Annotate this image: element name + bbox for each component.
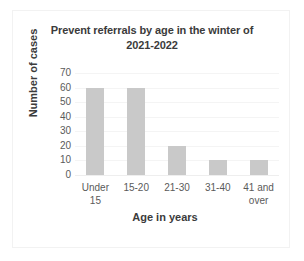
bar-slot — [157, 73, 198, 175]
y-tick-label: 30 — [60, 126, 71, 136]
chart-title: Prevent referrals by age in the winter o… — [23, 23, 281, 53]
x-tick-label-line: Under — [75, 181, 116, 194]
y-axis-tick-labels: 706050403020100 — [41, 73, 71, 175]
bar-slot — [197, 73, 238, 175]
bar-slot — [116, 73, 157, 175]
bar[interactable] — [209, 160, 227, 175]
bar-slot — [75, 73, 116, 175]
bar[interactable] — [127, 88, 145, 175]
y-tick-label: 40 — [60, 112, 71, 122]
x-axis-line — [75, 175, 279, 176]
chart-title-line-1: Prevent referrals by age in the winter o… — [51, 24, 254, 36]
chart-container: Prevent referrals by age in the winter o… — [12, 10, 290, 248]
y-axis-title: Number of cases — [27, 17, 39, 129]
chart-title-line-2: 2021-2022 — [126, 39, 178, 51]
x-tick-label-line: 21-30 — [157, 181, 198, 194]
x-tick-label: 31-40 — [197, 181, 238, 194]
x-tick-label-line: 15 — [75, 194, 116, 207]
x-tick-label-line: 15-20 — [116, 181, 157, 194]
y-tick-label: 20 — [60, 141, 71, 151]
x-tick-label: Under15 — [75, 181, 116, 207]
bar-slot — [238, 73, 279, 175]
x-axis-title: Age in years — [47, 211, 283, 223]
bar[interactable] — [250, 160, 268, 175]
y-tick-label: 0 — [65, 170, 71, 180]
x-axis-tick-labels: Under1515-2021-3031-4041 andover — [75, 181, 279, 211]
x-tick-label: 21-30 — [157, 181, 198, 194]
x-tick-label: 15-20 — [116, 181, 157, 194]
x-tick-label-line: 31-40 — [197, 181, 238, 194]
y-tick-label: 50 — [60, 97, 71, 107]
plot-area — [75, 73, 279, 175]
x-tick-label-line: over — [238, 194, 279, 207]
bar[interactable] — [86, 88, 104, 175]
y-tick-label: 10 — [60, 155, 71, 165]
y-tick-label: 70 — [60, 68, 71, 78]
x-tick-label: 41 andover — [238, 181, 279, 207]
y-tick-label: 60 — [60, 83, 71, 93]
bar[interactable] — [168, 146, 186, 175]
x-tick-label-line: 41 and — [238, 181, 279, 194]
